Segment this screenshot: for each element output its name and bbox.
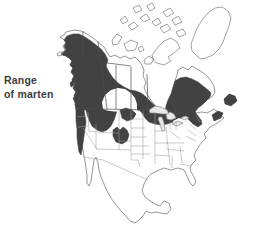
range-patch-haida-gwaii <box>70 80 74 87</box>
map-caption: Range of marten <box>4 73 54 101</box>
greenland-outline <box>191 7 231 59</box>
caption-line-1: Range <box>4 73 54 87</box>
range-patch-central-rockies <box>113 127 129 144</box>
caption-line-2: of marten <box>4 87 54 101</box>
arctic-islands <box>112 3 186 65</box>
north-america-map <box>0 0 256 230</box>
range-patch-newfoundland <box>224 94 237 106</box>
marten-range-figure: Range of marten <box>0 0 256 230</box>
